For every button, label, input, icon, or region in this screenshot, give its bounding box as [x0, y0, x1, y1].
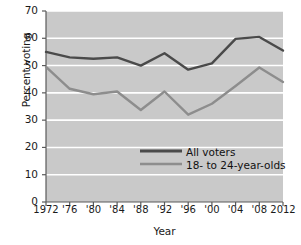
y-tick-label: 20: [8, 141, 38, 152]
x-tick-label: 2012: [266, 205, 300, 215]
plot-background: [46, 11, 283, 202]
voter-turnout-line-chart: 010203040506070 1972'76'80'84'88'92'96'0…: [0, 0, 301, 245]
legend-label-all-voters: All voters: [186, 147, 235, 158]
x-axis-title: Year: [46, 225, 283, 237]
y-tick-label: 10: [8, 169, 38, 180]
y-axis-title: Percent voting: [20, 0, 32, 140]
legend-label-young-voters: 18- to 24-year-olds: [186, 160, 286, 171]
